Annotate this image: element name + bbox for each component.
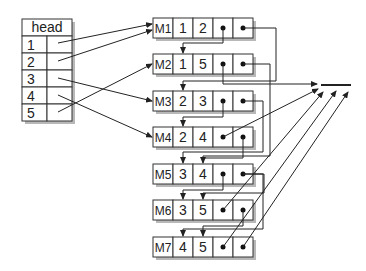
svg-text:3: 3 <box>199 93 207 109</box>
svg-text:5: 5 <box>199 56 207 72</box>
svg-text:4: 4 <box>199 129 207 145</box>
node-m4: M4 2 4 <box>153 127 256 150</box>
head-row-2: 2 <box>22 53 72 70</box>
svg-text:1: 1 <box>179 56 187 72</box>
svg-text:M5: M5 <box>155 168 172 182</box>
head-row-5: 5 <box>22 104 72 121</box>
svg-text:M7: M7 <box>155 241 172 255</box>
svg-text:M6: M6 <box>155 204 172 218</box>
svg-text:4: 4 <box>27 88 35 104</box>
node-m1: M1 1 2 <box>153 18 256 41</box>
svg-text:3: 3 <box>179 202 187 218</box>
node-m5: M5 3 4 <box>153 164 256 187</box>
head-row-4: 4 <box>22 87 72 104</box>
head-title: head <box>31 19 62 35</box>
head-row-1: 1 <box>22 36 72 53</box>
multi-list-diagram: head 1 2 3 4 5 M1 1 <box>0 0 366 271</box>
svg-text:1: 1 <box>179 20 187 36</box>
svg-text:5: 5 <box>27 105 35 121</box>
svg-text:2: 2 <box>27 54 35 70</box>
svg-text:2: 2 <box>179 129 187 145</box>
svg-text:M3: M3 <box>155 95 172 109</box>
svg-text:M2: M2 <box>155 58 172 72</box>
head-table: head 1 2 3 4 5 <box>22 19 75 124</box>
node-m7: M7 4 5 <box>153 237 256 260</box>
head-row-3: 3 <box>22 70 72 87</box>
node-m2: M2 1 5 <box>153 54 256 77</box>
svg-text:2: 2 <box>199 20 207 36</box>
node-m6: M6 3 5 <box>153 200 256 223</box>
svg-text:M1: M1 <box>155 22 172 36</box>
svg-text:5: 5 <box>199 202 207 218</box>
svg-text:4: 4 <box>179 239 187 255</box>
svg-text:M4: M4 <box>155 131 172 145</box>
svg-text:3: 3 <box>179 166 187 182</box>
svg-text:5: 5 <box>199 239 207 255</box>
svg-text:2: 2 <box>179 93 187 109</box>
svg-text:3: 3 <box>27 71 35 87</box>
svg-text:1: 1 <box>27 37 35 53</box>
svg-text:4: 4 <box>199 166 207 182</box>
node-m3: M3 2 3 <box>153 91 256 114</box>
